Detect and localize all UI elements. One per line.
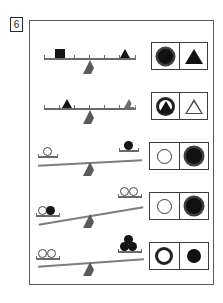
answer-cell-left-2[interactable]: [152, 93, 179, 119]
weight-circle-outline: [47, 249, 56, 258]
pan-surface: [119, 150, 139, 152]
pan-right-5: [118, 241, 142, 253]
weight-circle-outline: [120, 187, 129, 196]
beam-tick: [135, 55, 136, 60]
fulcrum: [83, 162, 97, 176]
answer-shape-circle-with-triangle: [156, 97, 175, 116]
inner-triangle-icon: [159, 101, 173, 113]
balance-scale-2: [36, 86, 148, 136]
beam-tick: [89, 105, 90, 110]
weight-circle-outline: [38, 249, 47, 258]
pan-left-3: [38, 146, 58, 158]
answer-cell-left-4[interactable]: [150, 193, 179, 219]
beam-tick: [104, 55, 105, 60]
beam-tick: [44, 55, 45, 60]
weight-circle-filled: [124, 141, 133, 150]
answer-shape-circle-outline: [157, 149, 172, 164]
pan-lip: [141, 194, 142, 198]
worksheet-page: 6: [0, 0, 223, 303]
answer-card-1[interactable]: [151, 42, 208, 70]
balance-scale-3: [36, 136, 148, 186]
pan-left-4: [36, 205, 60, 217]
puzzle-row-1: [30, 36, 215, 86]
answer-shape-triangle-filled: [185, 49, 203, 64]
answer-shape-circle-filled: [187, 249, 201, 263]
puzzle-row-2: [30, 86, 215, 136]
puzzle-row-4: [30, 186, 215, 236]
answer-card-4[interactable]: [149, 192, 209, 220]
answer-shape-triangle-outline: [185, 99, 203, 114]
answer-cell-left-1[interactable]: [152, 43, 179, 69]
pan-lip: [138, 148, 139, 152]
weight-circle-filled: [46, 206, 55, 215]
beam-tick: [119, 105, 120, 110]
answer-cell-right-4[interactable]: [179, 193, 209, 219]
beam-tick: [74, 55, 75, 60]
puzzle-panel: [29, 20, 214, 285]
pan-lip: [59, 256, 60, 260]
pan-lip: [118, 249, 119, 253]
answer-shape-circle-outline: [157, 199, 172, 214]
fulcrum: [83, 262, 97, 276]
puzzle-row-3: [30, 136, 215, 186]
balance-scale-4: [36, 186, 148, 236]
problem-number-badge: 6: [10, 17, 23, 32]
pan-lip: [119, 148, 120, 152]
pan-lip: [36, 213, 37, 217]
pan-lip: [57, 154, 58, 158]
weight-triangle-filled: [62, 99, 72, 108]
answer-card-5[interactable]: [149, 242, 209, 270]
answer-shape-circle-filled-ring: [186, 198, 202, 214]
beam-tick: [104, 105, 105, 110]
pan-surface: [36, 215, 60, 217]
pan-surface: [118, 251, 142, 253]
pan-lip: [59, 213, 60, 217]
balance-scale-1: [36, 36, 148, 86]
pan-right-3: [119, 140, 139, 152]
pan-left-5: [36, 248, 60, 260]
pan-lip: [118, 194, 119, 198]
pan-lip: [38, 154, 39, 158]
answer-cell-right-1[interactable]: [179, 43, 207, 69]
fulcrum: [83, 60, 97, 74]
answer-cell-left-5[interactable]: [150, 243, 179, 269]
puzzle-row-5: [30, 236, 215, 286]
pan-lip: [141, 249, 142, 253]
pan-surface: [36, 258, 60, 260]
answer-cell-right-2[interactable]: [179, 93, 207, 119]
weight-triangle-filled: [120, 49, 130, 58]
weight-circle-outline: [43, 147, 52, 156]
weight-square-filled: [55, 49, 65, 58]
beam-tick: [44, 105, 45, 110]
pan-surface: [38, 156, 58, 158]
answer-cell-right-5[interactable]: [179, 243, 209, 269]
beam-tick: [59, 105, 60, 110]
answer-card-3[interactable]: [149, 142, 209, 170]
pan-surface: [118, 196, 142, 198]
fulcrum: [83, 214, 97, 228]
balance-scale-5: [36, 236, 148, 286]
beam-tick: [89, 55, 90, 60]
answer-shape-circle-filled-ring: [186, 148, 202, 164]
answer-shape-circle-filled-ring: [158, 49, 173, 64]
beam-tick: [74, 105, 75, 110]
weight-circle-filled: [128, 242, 137, 251]
answer-card-2[interactable]: [151, 92, 208, 120]
answer-cell-right-3[interactable]: [179, 143, 209, 169]
pan-right-4: [118, 186, 142, 198]
answer-cell-left-3[interactable]: [150, 143, 179, 169]
fulcrum: [83, 110, 97, 124]
answer-shape-circle-thick-ring: [155, 247, 173, 265]
pan-lip: [36, 256, 37, 260]
weight-circle-outline: [129, 187, 138, 196]
weight-triangle-outline: [124, 99, 134, 108]
